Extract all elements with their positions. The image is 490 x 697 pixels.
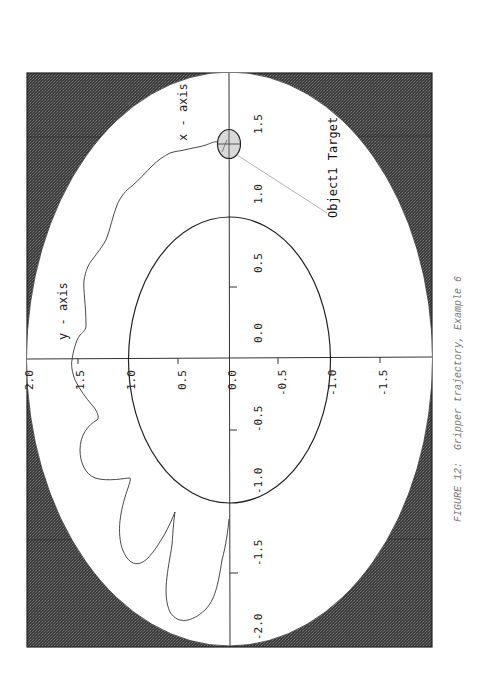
y-tick-label: -1.5 <box>377 370 390 397</box>
x-tick-label: 1.0 <box>252 184 265 204</box>
x-tick-label: -1.5 <box>252 540 265 567</box>
y-tick-label: -0.5 <box>276 370 289 397</box>
object1-target <box>218 130 241 159</box>
x-tick-label: -2.0 <box>252 614 265 641</box>
y-tick-label: 2.0 <box>23 370 36 390</box>
y-tick-label: -1.0 <box>326 370 339 397</box>
x-tick-label: 1.5 <box>252 114 265 134</box>
x-tick-label: -1.0 <box>252 468 265 495</box>
figure-caption: FIGURE 12: Gripper trajectory, Example 6 <box>453 276 464 522</box>
y-axis-label: y - axis <box>56 282 70 340</box>
target-label: Object1 Target <box>326 117 340 218</box>
y-tick-label: 0.0 <box>226 370 239 390</box>
x-axis-label: x - axis <box>176 83 190 141</box>
boundary-mark: ⊗ <box>124 100 133 105</box>
y-tick-label: 1.5 <box>74 370 87 390</box>
y-tick-label: 0.5 <box>176 370 189 390</box>
x-tick-label: -0.5 <box>252 406 265 433</box>
x-tick-label: 0.0 <box>252 323 265 343</box>
y-tick-label: 1.0 <box>125 370 138 390</box>
gripper-trajectory-figure: ⊗ x - axis y - axis Object1 Target 1.5 1… <box>0 0 490 697</box>
x-tick-label: 0.5 <box>252 253 265 273</box>
